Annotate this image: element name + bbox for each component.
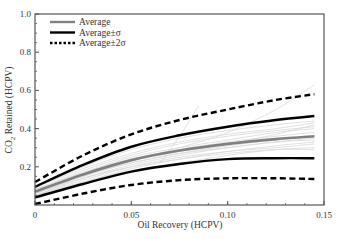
y-axis-title: CO2 Retained (HCPV) <box>4 67 17 154</box>
x-tick-label: 0.10 <box>220 210 236 220</box>
y-tick-label: 0.6 <box>20 85 32 95</box>
legend-label: Average <box>79 17 110 27</box>
chart-svg: 00.050.100.150.20.40.60.81.0 AverageAver… <box>0 0 341 239</box>
legend: AverageAverage±σAverage±2σ <box>50 17 126 48</box>
chart: 00.050.100.150.20.40.60.81.0 AverageAver… <box>0 0 341 239</box>
legend-label: Average±σ <box>79 28 121 38</box>
background-trace <box>35 148 314 196</box>
y-tick-label: 0.8 <box>20 47 32 57</box>
y-axis-title-suffix: Retained (HCPV) <box>4 67 15 137</box>
x-tick-label: 0.15 <box>316 210 332 220</box>
legend-label: Average±2σ <box>79 38 126 48</box>
y-tick-label: 0.4 <box>20 124 32 134</box>
y-tick-label: 0.2 <box>20 162 31 172</box>
x-axis-title: Oil Recovery (HCPV) <box>138 220 223 231</box>
y-axis-title-prefix: CO <box>4 140 14 153</box>
background-trace <box>35 132 314 189</box>
x-tick-label: 0 <box>33 210 38 220</box>
y-tick-label: 1.0 <box>20 9 32 19</box>
x-tick-label: 0.05 <box>123 210 139 220</box>
